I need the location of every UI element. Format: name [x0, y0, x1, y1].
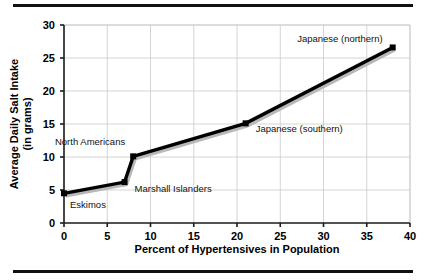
x-tick-label: 30: [317, 230, 329, 242]
y-tick-label: 25: [43, 52, 55, 64]
x-tick-label: 20: [231, 230, 243, 242]
y-tick-label: 0: [49, 217, 55, 229]
point-annotation-label: North Americans: [55, 136, 125, 147]
x-axis-title: Percent of Hypertensives in Population: [135, 243, 340, 255]
data-point-marker: [390, 44, 396, 50]
y-tick-label: 10: [43, 151, 55, 163]
x-tick-label: 35: [361, 230, 373, 242]
y-axis-title-line2: (in grams): [21, 97, 33, 151]
data-point-marker: [61, 190, 67, 196]
x-tick-label: 25: [274, 230, 286, 242]
point-annotation-label: Japanese (northern): [297, 33, 383, 44]
y-tick-label: 20: [43, 85, 55, 97]
point-annotation-label: Japanese (southern): [256, 123, 343, 134]
y-tick-label: 5: [49, 184, 55, 196]
point-annotation-label: Eskimos: [70, 199, 106, 210]
data-point-marker: [243, 120, 249, 126]
data-point-marker: [130, 153, 136, 159]
x-tick-label: 15: [188, 230, 200, 242]
x-tick-label: 0: [61, 230, 67, 242]
chart-figure: 051015202530 0510152025303540 EskimosMar…: [0, 0, 433, 280]
line-chart: 051015202530 0510152025303540 EskimosMar…: [0, 0, 433, 280]
y-tick-labels: 051015202530: [43, 19, 55, 229]
x-tick-label: 10: [144, 230, 156, 242]
x-tick-labels: 0510152025303540: [61, 230, 416, 242]
point-annotation-label: Marshall Islanders: [135, 183, 212, 194]
data-point-marker: [122, 179, 128, 185]
y-tick-label: 15: [43, 118, 55, 130]
x-tick-label: 5: [104, 230, 110, 242]
x-tick-label: 40: [404, 230, 416, 242]
y-axis-title-line1: Average Daily Salt Intake: [8, 59, 20, 189]
y-tick-label: 30: [43, 19, 55, 31]
